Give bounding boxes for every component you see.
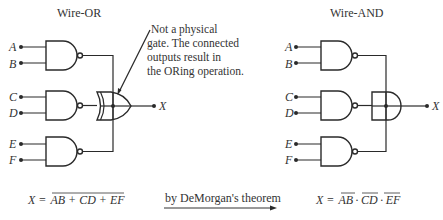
output-label-x: X <box>158 99 167 113</box>
right-arrow-icon <box>270 206 277 211</box>
input-label-f: F <box>284 153 293 167</box>
annotation-line-1: Not a physical <box>151 23 217 36</box>
equation-lhs: X = <box>315 193 334 207</box>
output-label-x: X <box>431 99 440 113</box>
nand-gate-ef <box>321 137 352 166</box>
annotation-line-2: gate. The connected <box>147 37 239 50</box>
input-label-e: E <box>284 137 293 151</box>
annotation-pointer <box>119 30 150 92</box>
input-label-c: C <box>9 90 18 104</box>
nand-gate-cd <box>321 91 352 120</box>
equation-lhs: X = <box>27 193 46 207</box>
annotation-line-3: outputs result in <box>147 51 221 64</box>
junction-dot <box>111 104 115 108</box>
input-label-d: D <box>284 106 294 120</box>
demorgan-label: by DeMorgan's theorem <box>165 191 282 205</box>
inversion-bubble <box>353 103 358 108</box>
input-label-b: B <box>9 57 17 71</box>
annotation-line-4: the ORing operation. <box>147 65 244 78</box>
wire-or-equation: X =AB + CD + EF <box>27 193 125 207</box>
wire-and-title: Wire-AND <box>330 6 384 20</box>
wire-and-equation: X =AB·CD·EF <box>315 193 401 207</box>
wire-or-title: Wire-OR <box>57 6 101 20</box>
input-label-b: B <box>285 57 293 71</box>
wire-or-wire-and-diagram: Wire-OR A B C D E F <box>0 0 443 220</box>
input-label-e: E <box>8 137 17 151</box>
equation-rhs: AB + CD + EF <box>49 193 125 207</box>
inversion-bubble <box>353 53 358 58</box>
output-terminal <box>425 104 429 108</box>
term-cd: CD <box>361 193 378 207</box>
input-wires <box>21 47 46 160</box>
dot-separator: · <box>355 193 359 207</box>
input-label-c: C <box>285 90 294 104</box>
input-label-a: A <box>8 40 17 54</box>
wired-connection <box>83 56 114 152</box>
inversion-bubble <box>78 149 83 154</box>
output-terminal <box>152 104 156 108</box>
nand-gate-ef <box>46 137 77 166</box>
dot-separator: · <box>380 193 384 207</box>
demorgan-transform: by DeMorgan's theorem <box>164 191 282 211</box>
wire-or-circuit: Wire-OR A B C D E F <box>8 6 244 207</box>
inversion-bubble <box>78 103 83 108</box>
input-label-d: D <box>8 106 18 120</box>
term-ab: AB <box>337 193 353 207</box>
input-label-f: F <box>8 153 17 167</box>
inversion-bubble <box>353 149 358 154</box>
input-wires <box>296 47 321 160</box>
term-ef: EF <box>385 193 401 207</box>
nand-gate-ab <box>321 41 352 70</box>
junction-dot <box>384 104 388 108</box>
inversion-bubble <box>78 53 83 58</box>
nand-gate-ab <box>46 41 77 70</box>
input-label-a: A <box>284 40 293 54</box>
wire-and-circuit: Wire-AND A B C D E F X X =AB·CD·EF <box>284 6 440 207</box>
nand-gate-cd <box>46 91 77 120</box>
